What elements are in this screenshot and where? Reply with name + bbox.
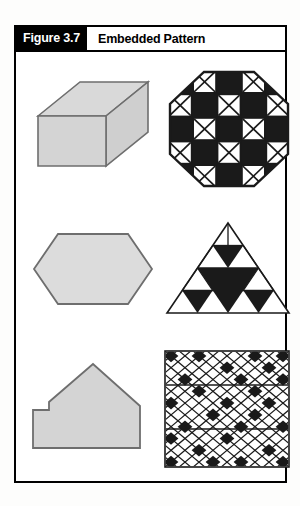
octagon-cell-dark	[168, 70, 192, 94]
octagon-cell-dark	[241, 94, 265, 118]
figure-number-badge: Figure 3.7	[16, 27, 87, 50]
octagon-checkerboard-pattern	[168, 70, 290, 188]
octagon-cell-dark	[266, 117, 290, 141]
octagon-cell-dark	[217, 70, 241, 94]
octagon-cell-dark	[168, 164, 192, 188]
diamond-lattice-pattern	[164, 350, 290, 468]
octagon-cell-dark	[192, 141, 216, 165]
rectangular-box-shape	[34, 78, 152, 170]
octagon-cell-dark	[168, 117, 192, 141]
figure-title: Embedded Pattern	[87, 27, 205, 50]
sierpinski-triangle-pattern	[164, 220, 292, 316]
octagon-cell-dark	[241, 141, 265, 165]
box-front-face	[38, 116, 106, 166]
octagon-cell-dark	[217, 117, 241, 141]
octagon-cell-dark	[266, 70, 290, 94]
figure-frame: Figure 3.7 Embedded Pattern	[14, 25, 287, 483]
hexagon-body	[34, 234, 152, 304]
figure-body	[16, 52, 285, 483]
house-pentagon-shape	[30, 360, 156, 452]
octagon-cell-dark	[266, 164, 290, 188]
octagon-cell-dark	[217, 164, 241, 188]
octagon-cell-dark	[192, 94, 216, 118]
house-body	[33, 364, 140, 448]
elongated-hexagon-shape	[30, 224, 156, 314]
figure-header: Figure 3.7 Embedded Pattern	[16, 27, 285, 52]
